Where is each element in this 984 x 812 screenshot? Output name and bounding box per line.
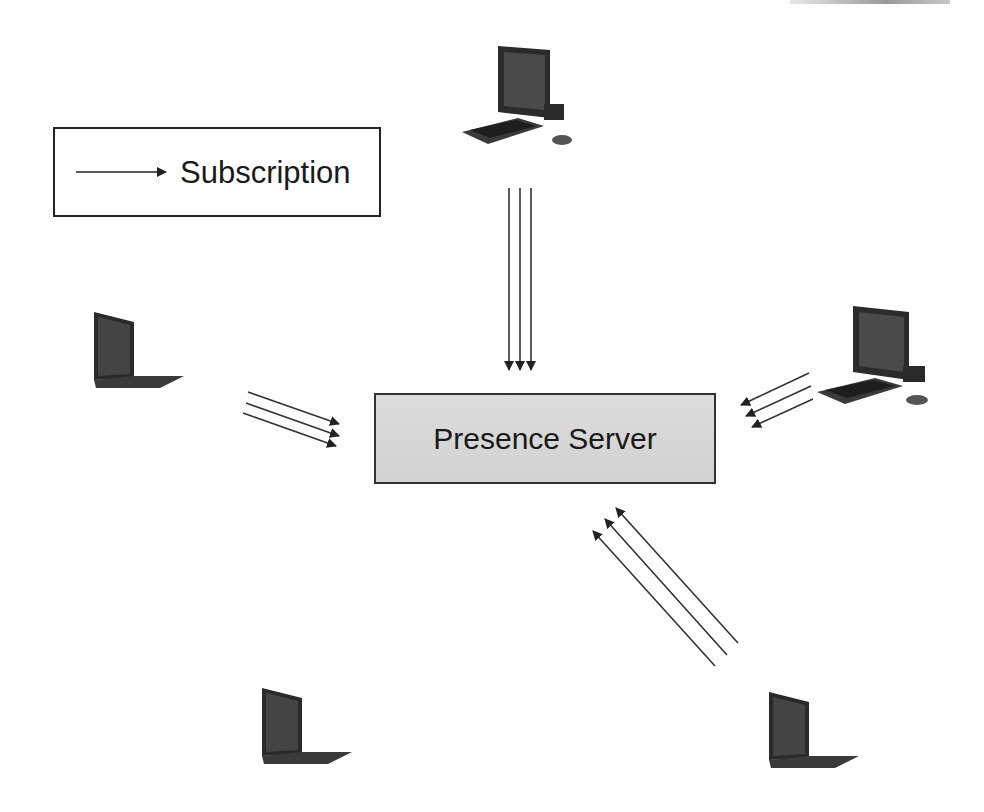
laptop-bottom-left-icon [258,684,358,769]
desktop-computer-right-icon [815,300,935,410]
desktop-computer-top-icon [458,40,578,150]
subscription-arrows-bottom-right [593,508,738,666]
subscription-arrows-right [741,373,813,427]
laptop-bottom-right-icon [765,688,865,773]
subscription-arrows-top [509,188,531,370]
laptop-left-icon [90,308,190,393]
subscription-arrows-left [243,392,339,446]
